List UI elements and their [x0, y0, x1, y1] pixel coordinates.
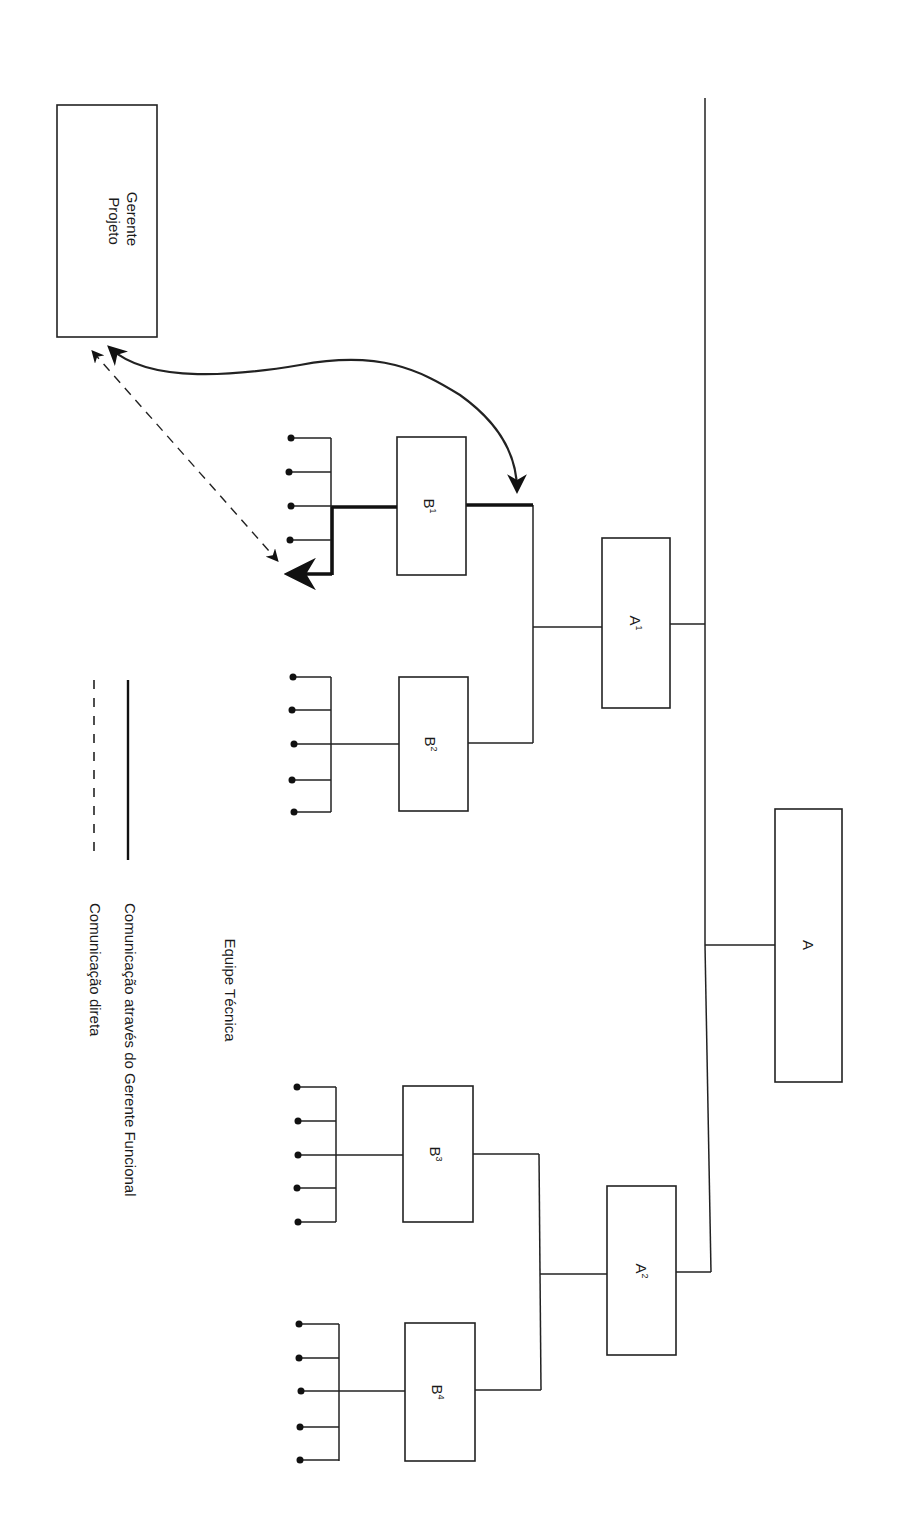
svg-text:Gerente Projeto: Gerente Projeto [106, 192, 141, 250]
node-a-label: A [800, 940, 817, 950]
node-b4-group: B4 [296, 1321, 542, 1464]
legend-solid-label: Comunicação através do Gerente Funcional [122, 903, 139, 1197]
node-b3-sup: 3 [434, 1157, 444, 1162]
b4-team-members [296, 1321, 340, 1464]
node-a2-base: A [633, 1263, 650, 1273]
node-b3-group: B3 [294, 1084, 540, 1226]
node-b4-base: B [429, 1384, 446, 1394]
gerente-projeto-node: Gerente Projeto [57, 105, 157, 337]
direct-communication-arrow [93, 352, 277, 560]
b1-team-members [286, 435, 333, 575]
node-b4-sup: 4 [436, 1395, 446, 1400]
node-b2-base: B [422, 736, 439, 746]
node-b1-group: B1 [286, 435, 534, 576]
node-a1-sup: 1 [634, 626, 644, 631]
node-a2: A2 [540, 1186, 711, 1355]
main-spine-line-lower [705, 945, 711, 1272]
node-a1-base: A [627, 615, 644, 625]
node-b1-base: B [421, 498, 438, 508]
projeto-label: Projeto [106, 197, 123, 245]
organization-diagram: Gerente Projeto A A1 B1 [0, 0, 901, 1515]
b2-team-members [289, 674, 332, 816]
node-a2-sup: 2 [640, 1274, 650, 1279]
node-b2-sup: 2 [429, 747, 439, 752]
a2-branch-line [539, 1154, 541, 1390]
node-b3-base: B [427, 1146, 444, 1156]
node-b2-group: B2 [289, 674, 534, 816]
node-a1: A1 [533, 538, 705, 708]
node-a: A [705, 809, 842, 1082]
gerente-label: Gerente [124, 192, 141, 246]
legend: Comunicação através do Gerente Funcional… [87, 680, 139, 1197]
b3-team-members [294, 1084, 337, 1226]
node-b1-sup: 1 [428, 509, 438, 514]
legend-dashed-label: Comunicação direta [87, 903, 104, 1037]
equipe-tecnica-label: Equipe Técnica [222, 938, 239, 1042]
